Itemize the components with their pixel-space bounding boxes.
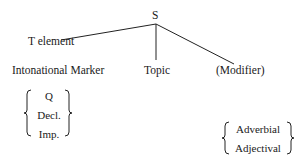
modifier-options: Adverbial Adjectival — [230, 124, 286, 154]
option-q: Q — [34, 91, 64, 102]
syntax-tree-diagram: S T element Intonational Marker Topic (M… — [0, 0, 299, 166]
option-imp: Imp. — [34, 129, 64, 140]
intonation-options: Q Decl. Imp. — [34, 91, 64, 140]
option-adverbial: Adverbial — [230, 124, 286, 135]
option-decl: Decl. — [34, 110, 64, 121]
option-adjectival: Adjectival — [230, 143, 286, 154]
